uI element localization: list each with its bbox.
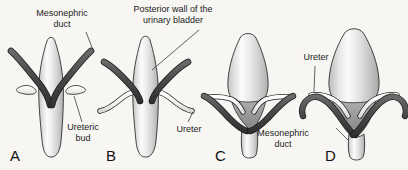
bladder-neck-d: [348, 134, 364, 160]
label-mesonephric-duct-top: Mesonephric duct: [26, 8, 98, 29]
label-ureter-d: Ureter: [294, 52, 338, 63]
label-posterior-wall-line2: urinary bladder: [143, 15, 203, 25]
label-ureteric-bud: Ureteric bud: [56, 122, 110, 143]
label-mesonephric-duct-cd-line1: Mesonephric: [257, 128, 309, 138]
label-posterior-wall: Posterior wall of the urinary bladder: [117, 4, 229, 25]
label-ureteric-bud-line1: Ureteric: [67, 122, 99, 132]
panel-letter-b: B: [106, 148, 116, 163]
label-ureteric-bud-line2: bud: [75, 133, 90, 143]
panel-letter-d: D: [325, 148, 336, 163]
label-ureter-b: Ureter: [167, 124, 211, 135]
label-mesonephric-duct-top-line2: duct: [53, 19, 70, 29]
label-mesonephric-duct-top-line1: Mesonephric: [36, 8, 88, 18]
panel-letter-a: A: [10, 148, 20, 163]
label-mesonephric-duct-cd: Mesonephric duct: [246, 128, 320, 149]
label-mesonephric-duct-cd-line2: duct: [274, 139, 291, 149]
panel-letter-c: C: [215, 148, 226, 163]
label-posterior-wall-line1: Posterior wall of the: [133, 4, 212, 14]
